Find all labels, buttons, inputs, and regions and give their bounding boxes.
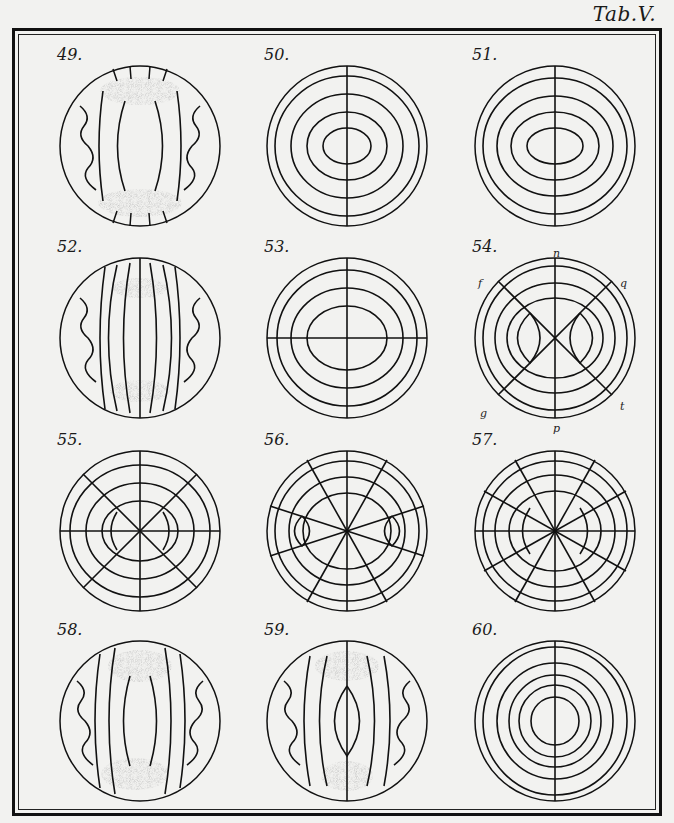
label-t: t: [620, 400, 624, 413]
figure-56: 56.: [222, 430, 422, 625]
figure-52: 52.: [15, 237, 215, 432]
figure-58: 58.: [15, 620, 215, 815]
figure-51: 51.: [430, 45, 630, 240]
ring-diagram: [262, 61, 432, 231]
label-f: f: [478, 277, 482, 290]
figure-49: 49.: [15, 45, 215, 240]
fringe-diagram-shaded: [55, 253, 225, 423]
plate-title: Tab.V.: [593, 2, 656, 26]
ring-cross-diagram: [262, 253, 432, 423]
radial-diagram-12: [470, 446, 640, 616]
ring-diagram: [470, 61, 640, 231]
fringe-diagram-shaded: [55, 636, 225, 806]
radial-hyperbolic-diagram: [262, 446, 432, 616]
figure-55: 55.: [15, 430, 215, 625]
figure-54: 54. n f q g t p: [430, 237, 630, 432]
figure-59: 59.: [222, 620, 422, 815]
fringe-diagram-shaded-axis: [262, 636, 432, 806]
figure-57: 57.: [430, 430, 630, 625]
figure-50: 50.: [222, 45, 422, 240]
label-g: g: [480, 407, 487, 420]
fringe-diagram-shaded: [55, 61, 225, 231]
ring-diagram: [470, 636, 640, 806]
label-q: q: [620, 277, 627, 290]
label-n: n: [553, 247, 560, 260]
ring-diagonal-diagram: [470, 253, 640, 423]
figure-60: 60.: [430, 620, 630, 815]
figure-53: 53.: [222, 237, 422, 432]
radial-diagram: [55, 446, 225, 616]
